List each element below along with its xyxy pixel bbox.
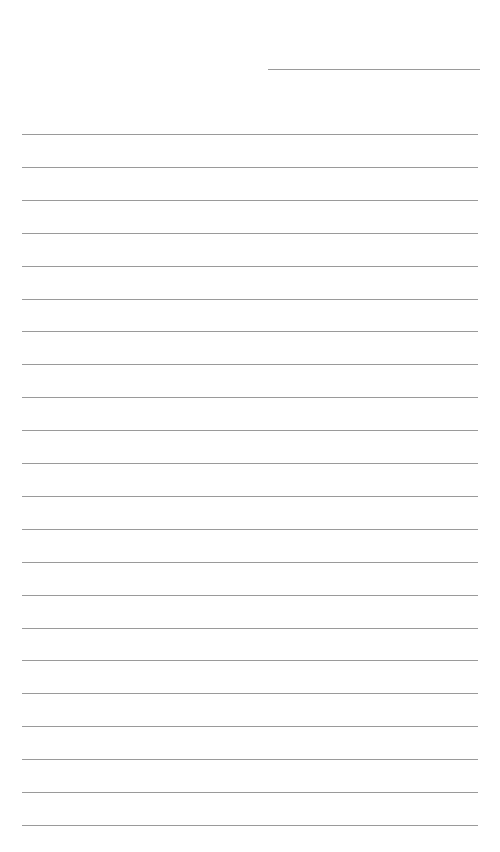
header-line [268,69,480,70]
ruled-line [22,134,478,135]
ruled-line [22,430,478,431]
ruled-line [22,660,478,661]
ruled-line [22,364,478,365]
ruled-line [22,266,478,267]
ruled-line [22,792,478,793]
ruled-line [22,825,478,826]
ruled-line [22,529,478,530]
ruled-line [22,562,478,563]
ruled-line [22,693,478,694]
ruled-line [22,299,478,300]
ruled-line [22,233,478,234]
ruled-line [22,726,478,727]
ruled-line [22,496,478,497]
ruled-line [22,759,478,760]
ruled-line [22,200,478,201]
ruled-line [22,628,478,629]
ruled-line [22,463,478,464]
ruled-line [22,167,478,168]
ruled-line [22,595,478,596]
ruled-line [22,397,478,398]
lined-paper-page [0,0,500,852]
ruled-line [22,331,478,332]
